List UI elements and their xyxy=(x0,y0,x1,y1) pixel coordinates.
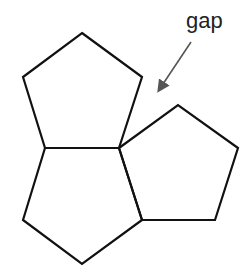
gap-arrow xyxy=(159,42,191,90)
pentagon-gap-diagram: gap xyxy=(0,0,248,275)
top-pentagon xyxy=(23,33,142,148)
gap-label: gap xyxy=(186,8,223,33)
right-pentagon xyxy=(119,105,238,220)
